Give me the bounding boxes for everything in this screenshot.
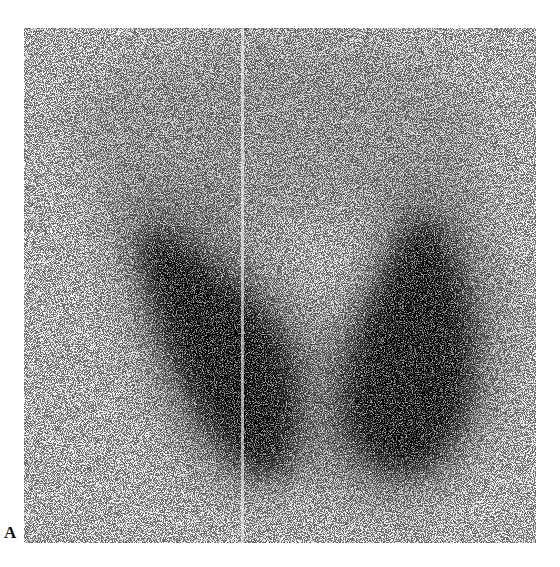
scan-seam: [241, 28, 244, 543]
uptake-density: [24, 28, 536, 543]
panel-label: A: [4, 524, 16, 541]
thyroid-scan-image: [24, 28, 536, 543]
figure: A: [0, 0, 560, 567]
scan-svg: [24, 28, 536, 543]
